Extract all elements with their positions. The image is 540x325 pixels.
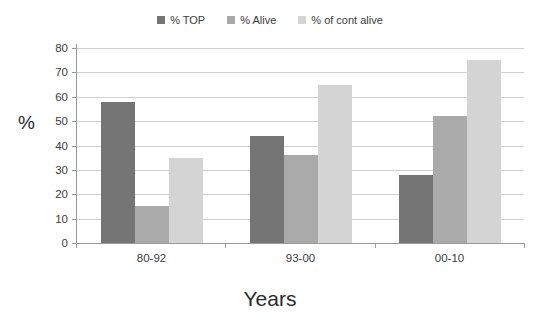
y-tick-label: 20 [55,188,68,200]
y-tick-label: 80 [55,42,68,54]
x-tick-mark [225,243,226,248]
bar[interactable] [169,158,203,243]
bar[interactable] [284,155,318,243]
y-tick-label: 70 [55,66,68,78]
bars-layer [77,48,524,243]
legend-swatch-icon [157,16,165,24]
legend-label: % Alive [240,14,276,26]
legend-label: % of cont alive [311,14,383,26]
bar[interactable] [101,102,135,243]
bar-group-00-10 [375,48,524,243]
legend-item-0[interactable]: % TOP [157,14,205,26]
legend-swatch-icon [227,16,235,24]
y-tick-label: 0 [62,237,68,249]
x-tick-label: 93-00 [226,252,375,264]
legend-item-1[interactable]: % Alive [227,14,276,26]
y-tick-label: 40 [55,140,68,152]
bar[interactable] [135,206,169,243]
bar[interactable] [433,116,467,243]
x-tick-mark [375,243,376,248]
y-tick-label: 50 [55,115,68,127]
bar[interactable] [250,136,284,243]
x-axis-line [76,243,524,244]
x-tick-mark [76,243,77,248]
legend-label: % TOP [170,14,205,26]
x-tick-label: 00-10 [375,252,524,264]
legend-swatch-icon [298,16,306,24]
bar-chart-figure: % TOP% Alive% of cont alive 807060504030… [0,0,540,325]
x-axis-tick-labels: 80-9293-0000-10 [77,252,524,264]
bar[interactable] [467,60,501,243]
y-tick-label: 60 [55,91,68,103]
x-tick-mark [524,243,525,248]
y-axis-title: % [18,112,35,134]
x-axis-title: Years [0,287,540,311]
bar[interactable] [318,85,352,243]
bar-group-80-92 [77,48,226,243]
y-tick-label: 30 [55,164,68,176]
y-tick-label: 10 [55,213,68,225]
bar-group-93-00 [226,48,375,243]
x-tick-label: 80-92 [77,252,226,264]
legend-item-2[interactable]: % of cont alive [298,14,383,26]
bar[interactable] [399,175,433,243]
chart-legend: % TOP% Alive% of cont alive [0,14,540,26]
plot-area: 80706050403020100 [76,48,524,243]
